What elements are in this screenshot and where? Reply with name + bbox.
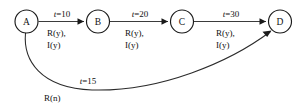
node-d-label: D — [277, 17, 284, 27]
arrowhead-b-to-c — [162, 18, 169, 24]
edge-b-to-c-cond-line1: R(y), — [125, 28, 144, 38]
edge-c-to-d-cond-line1: R(y), — [216, 28, 235, 38]
cond-text: I(y) — [125, 40, 139, 50]
cond-text: I(y) — [216, 40, 230, 50]
cond-text: I(y) — [47, 40, 61, 50]
diagram-svg: A B C D t=10 R(y), I(y) t=20 R(y), I(y) — [0, 0, 305, 112]
time-value: =20 — [134, 9, 149, 19]
node-c-label: C — [179, 17, 185, 27]
cond-text: R(y), — [47, 28, 66, 38]
arrowhead-a-to-b — [78, 18, 85, 24]
arrowhead-c-to-d — [260, 18, 267, 24]
diagram-canvas: A B C D t=10 R(y), I(y) t=20 R(y), I(y) — [0, 0, 305, 112]
edge-a-to-b-cond-line2: I(y) — [47, 40, 61, 50]
edge-a-to-d-time-label: t=15 — [80, 76, 97, 86]
edge-a-to-d-curve — [25, 32, 270, 91]
node-a-label: A — [23, 17, 30, 27]
cond-text: R(y), — [216, 28, 235, 38]
edge-a-to-d-cond-line1: R(n) — [44, 93, 61, 103]
cond-text: R(y), — [125, 28, 144, 38]
edge-c-to-d-time-label: t=30 — [223, 9, 240, 19]
edge-c-to-d-cond-line2: I(y) — [216, 40, 230, 50]
edge-a-to-b-time-label: t=10 — [54, 9, 71, 19]
cond-text: R(n) — [44, 93, 61, 103]
time-value: =30 — [225, 9, 240, 19]
time-value: =15 — [82, 76, 97, 86]
time-value: =10 — [56, 9, 71, 19]
node-b-label: B — [95, 17, 101, 27]
edge-b-to-c-time-label: t=20 — [132, 9, 149, 19]
edge-a-to-b-cond-line1: R(y), — [47, 28, 66, 38]
edge-b-to-c-cond-line2: I(y) — [125, 40, 139, 50]
